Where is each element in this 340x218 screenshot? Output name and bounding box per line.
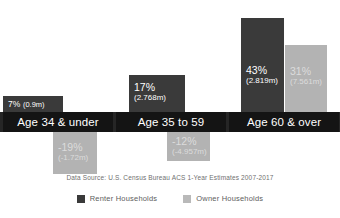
bar-value-absolute: (-4.957m) — [172, 148, 208, 157]
category-label-age-34-under: Age 34 & under — [3, 112, 113, 132]
data-source-note: Data Source: U.S. Census Bureau ACS 1-Ye… — [0, 174, 340, 181]
category-axis-band: Age 34 & under Age 35 to 59 Age 60 & ove… — [0, 112, 340, 132]
bar-value-percent: 7% — [8, 99, 20, 109]
bar-value-percent: 17% — [134, 82, 183, 94]
bar-value-absolute: (2.768m) — [134, 94, 183, 103]
category-label-age-35-59: Age 35 to 59 — [116, 112, 226, 132]
bar-owner-age-35-59[interactable]: -12% (-4.957m) — [167, 132, 210, 161]
bar-label-owner-age-60-over: 31% (7.561m) — [290, 66, 325, 87]
category-label-text: Age 35 to 59 — [116, 112, 226, 132]
category-label-age-60-over: Age 60 & over — [229, 112, 339, 132]
plot-area: 7% (0.9m) -19% (-1.72m) 17% (2.768m) -12… — [0, 6, 340, 164]
bar-renter-age-35-59[interactable]: 17% (2.768m) — [129, 75, 185, 112]
legend-label-renter: Renter Households — [90, 194, 158, 203]
bar-renter-age-34-under[interactable]: 7% (0.9m) — [3, 96, 63, 112]
legend-item-owner[interactable]: Owner Households — [183, 194, 263, 203]
bar-value-absolute: (2.819m) — [246, 77, 282, 86]
bar-owner-age-34-under[interactable]: -19% (-1.72m) — [53, 132, 97, 174]
category-label-text: Age 60 & over — [229, 112, 339, 132]
legend-item-renter[interactable]: Renter Households — [77, 194, 158, 203]
legend-swatch-owner-icon — [183, 195, 191, 203]
legend-label-owner: Owner Households — [196, 194, 263, 203]
household-growth-bar-chart: 7% (0.9m) -19% (-1.72m) 17% (2.768m) -12… — [0, 0, 340, 218]
bar-value-absolute: (-1.72m) — [58, 154, 95, 163]
bar-label-renter-age-60-over: 43% (2.819m) — [246, 65, 282, 86]
bar-renter-age-60-over[interactable]: 43% (2.819m) — [241, 18, 284, 112]
bar-label-owner-age-34-under: -19% (-1.72m) — [58, 142, 95, 163]
bar-value-percent: 31% — [290, 66, 325, 78]
bar-value-absolute: (7.561m) — [290, 78, 325, 87]
bar-label-renter-age-35-59: 17% (2.768m) — [134, 82, 183, 103]
chart-legend: Renter Households Owner Households — [0, 194, 340, 203]
legend-swatch-renter-icon — [77, 195, 85, 203]
category-label-text: Age 34 & under — [3, 112, 113, 132]
bar-label-owner-age-35-59: -12% (-4.957m) — [172, 136, 208, 157]
bar-value-percent: -19% — [58, 142, 95, 154]
bar-value-absolute: (0.9m) — [23, 100, 45, 109]
bar-owner-age-60-over[interactable]: 31% (7.561m) — [285, 45, 327, 112]
bar-value-percent: -12% — [172, 136, 208, 148]
bar-label-renter-age-34-under: 7% (0.9m) — [8, 99, 61, 110]
bar-value-percent: 43% — [246, 65, 282, 77]
